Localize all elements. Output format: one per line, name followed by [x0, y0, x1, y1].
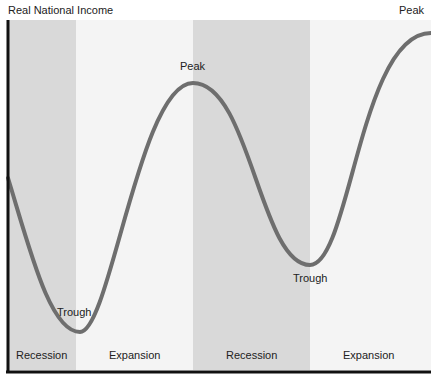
recession-band-2: [193, 20, 310, 370]
peak-label-1: Peak: [180, 60, 205, 72]
business-cycle-diagram: [0, 0, 431, 383]
peak-label-2: Peak: [399, 4, 424, 16]
axis-label: Real National Income: [8, 4, 113, 16]
phase-label-recession-1: Recession: [16, 349, 67, 361]
trough-label-1: Trough: [57, 306, 91, 318]
phase-label-expansion-1: Expansion: [109, 349, 160, 361]
trough-label-2: Trough: [293, 272, 327, 284]
phase-label-recession-2: Recession: [226, 349, 277, 361]
phase-label-expansion-2: Expansion: [343, 349, 394, 361]
expansion-band-2: [310, 20, 431, 370]
